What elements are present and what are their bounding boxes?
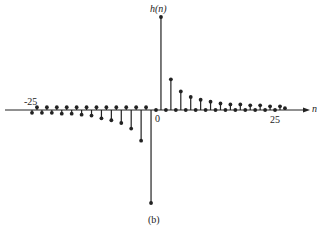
- y-axis-label: h(n): [150, 4, 167, 14]
- stem-marker: [243, 108, 247, 112]
- stem-marker: [100, 116, 104, 120]
- stem-marker: [209, 100, 213, 104]
- stem-marker: [40, 111, 44, 115]
- x-tick-0: 0: [155, 114, 160, 124]
- x-tick-25: 25: [270, 115, 280, 125]
- stem-marker: [50, 111, 54, 115]
- x-axis-label: n: [312, 104, 317, 114]
- stem-marker: [189, 95, 193, 99]
- stem-marker: [144, 105, 148, 109]
- stem-marker: [85, 105, 89, 109]
- stem-marker: [164, 108, 168, 112]
- stem-marker: [258, 103, 262, 107]
- x-tick-neg25: -25: [24, 97, 37, 107]
- stem-marker: [184, 108, 188, 112]
- stem-marker: [229, 103, 233, 107]
- stem-marker: [90, 114, 94, 118]
- stem-marker: [214, 108, 218, 112]
- stem-marker: [278, 104, 282, 108]
- stem-marker: [248, 103, 252, 107]
- stem-marker: [224, 108, 228, 112]
- stem-marker: [169, 77, 173, 81]
- stem-marker: [263, 108, 267, 112]
- stem-marker: [65, 105, 69, 109]
- stem-marker: [124, 105, 128, 109]
- stem-marker: [75, 105, 79, 109]
- stem-marker: [70, 112, 74, 116]
- stem-marker: [238, 103, 242, 107]
- stem-marker: [233, 108, 237, 112]
- stem-marker: [194, 108, 198, 112]
- stem-marker: [219, 102, 223, 106]
- stem-marker: [149, 201, 153, 205]
- x-axis-arrow-icon: [303, 108, 310, 113]
- stem-marker: [154, 108, 158, 112]
- stem-marker: [159, 15, 163, 19]
- figure-caption: (b): [148, 215, 160, 225]
- stem-marker: [134, 105, 138, 109]
- stem-marker: [139, 139, 143, 143]
- stem-marker: [60, 112, 64, 116]
- stem-marker: [95, 105, 99, 109]
- stem-marker: [80, 113, 84, 117]
- stem-marker: [179, 90, 183, 94]
- stem-marker: [174, 108, 178, 112]
- stem-marker: [283, 106, 287, 110]
- stem-marker: [109, 118, 113, 122]
- stem-marker: [129, 127, 133, 131]
- stem-marker: [119, 121, 123, 125]
- stem-marker: [253, 108, 257, 112]
- stem-marker: [273, 108, 277, 112]
- stem-marker: [55, 105, 59, 109]
- stem-marker: [105, 105, 109, 109]
- stem-marker: [199, 98, 203, 102]
- stem-marker: [268, 104, 272, 108]
- stem-marker: [30, 111, 34, 115]
- stem-marker: [45, 105, 49, 109]
- stem-marker: [204, 108, 208, 112]
- stem-marker: [114, 105, 118, 109]
